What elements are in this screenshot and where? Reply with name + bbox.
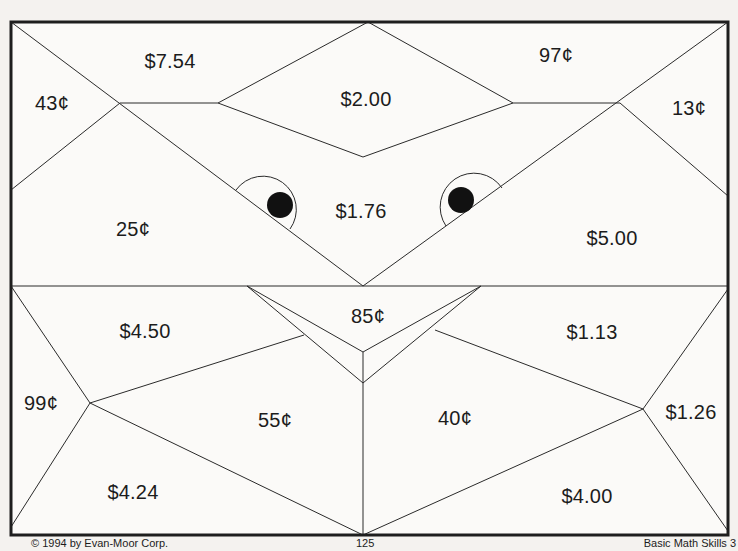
region-label[interactable]: $4.00 — [561, 485, 612, 508]
region-label[interactable]: $2.00 — [340, 88, 391, 111]
region-label[interactable]: 97¢ — [539, 44, 573, 67]
region-label[interactable]: 40¢ — [438, 407, 472, 430]
region-label[interactable]: $4.24 — [107, 481, 158, 504]
region-label[interactable]: $1.26 — [665, 401, 716, 424]
copyright-text: © 1994 by Evan-Moor Corp. — [31, 537, 168, 549]
region-label[interactable]: 55¢ — [258, 409, 292, 432]
region-label[interactable]: 85¢ — [351, 305, 385, 328]
region-label[interactable]: 43¢ — [35, 92, 69, 115]
color-by-value-puzzle — [0, 0, 738, 551]
region-label[interactable]: 99¢ — [24, 392, 58, 415]
region-label[interactable]: $4.50 — [119, 320, 170, 343]
region-label[interactable]: 25¢ — [116, 218, 150, 241]
page-number: 125 — [356, 537, 374, 549]
region-label[interactable]: $7.54 — [144, 50, 195, 73]
book-title: Basic Math Skills 3 — [644, 537, 736, 549]
region-label[interactable]: $1.13 — [566, 321, 617, 344]
region-label[interactable]: 13¢ — [672, 97, 706, 120]
left-pupil — [267, 192, 293, 218]
right-pupil — [448, 187, 474, 213]
region-label[interactable]: $5.00 — [586, 227, 637, 250]
region-label[interactable]: $1.76 — [335, 200, 386, 223]
